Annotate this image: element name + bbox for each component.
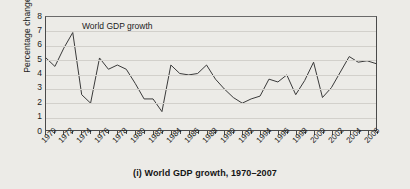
x-axis-tick-label: 1998 bbox=[291, 127, 309, 145]
chart-figure: Percentage change 012345678 World GDP gr… bbox=[0, 0, 410, 189]
x-axis-tick-label: 1984 bbox=[165, 127, 183, 145]
x-axis-tick-label: 2004 bbox=[345, 127, 363, 145]
x-axis-tick-label: 1972 bbox=[58, 127, 76, 145]
x-axis-tick-label: 2000 bbox=[309, 127, 327, 145]
x-axis-tick-label: 2006 bbox=[363, 127, 381, 145]
x-axis-tick-labels: 1970197219741976197819801982198419861988… bbox=[0, 0, 410, 189]
x-axis-tick-label: 1990 bbox=[219, 127, 237, 145]
x-axis-tick-label: 1994 bbox=[255, 127, 273, 145]
x-axis-tick-label: 1996 bbox=[273, 127, 291, 145]
x-axis-tick-label: 1976 bbox=[93, 127, 111, 145]
x-axis-tick-label: 1992 bbox=[237, 127, 255, 145]
x-axis-tick-label: 2002 bbox=[327, 127, 345, 145]
figure-caption: (i) World GDP growth, 1970–2007 bbox=[0, 168, 410, 178]
x-axis-tick-label: 1970 bbox=[40, 127, 58, 145]
x-axis-tick-label: 1988 bbox=[201, 127, 219, 145]
x-axis-tick-label: 1974 bbox=[76, 127, 94, 145]
x-axis-tick-label: 1978 bbox=[111, 127, 129, 145]
x-axis-tick-label: 1982 bbox=[147, 127, 165, 145]
x-axis-tick-label: 1986 bbox=[183, 127, 201, 145]
x-axis-tick-label: 1980 bbox=[129, 127, 147, 145]
